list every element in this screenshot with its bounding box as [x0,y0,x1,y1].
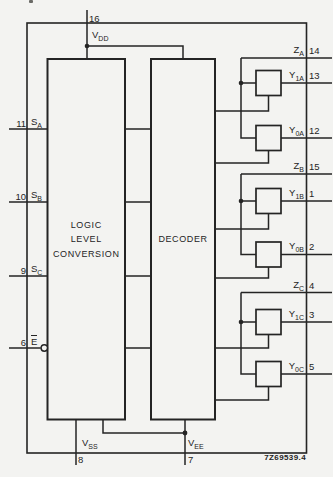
pin-1-number: 1 [309,188,314,199]
wire-vee [103,420,185,466]
wire-block-connectors [125,129,151,348]
pin-3-number: 3 [309,309,314,320]
pin-10-number: 10 [6,191,26,202]
y1b-label: Y1B [270,187,304,202]
pin-13-number: 13 [309,70,320,81]
y1c-label: Y1C [270,308,304,323]
pin-12-number: 12 [309,125,320,136]
decoder-label: DECODER [151,232,215,246]
figure-code: 7Z69539.4 [226,453,306,462]
pin-14-number: 14 [309,45,320,56]
vdd-label: VDD [92,29,108,44]
y0a-label: Y0A [270,124,304,139]
y1a-label: Y1A [270,69,304,84]
y0b-label: Y0B [270,240,304,255]
junction-dot-za [239,81,244,86]
junction-dot-zc [239,320,244,325]
junction-dot-zb [239,199,244,204]
enable-inverter-bubble [41,345,47,351]
junction-dot-vdd [85,44,90,49]
y0c-label: Y0C [270,360,304,375]
pin-6-number: 6 [6,337,26,348]
pin-9-number: 9 [6,265,26,276]
sb-label: SB [31,189,42,204]
pin-11-number: 11 [6,118,26,129]
vee-label: VEE [188,437,204,452]
logic-level-conversion-label: LOGIC LEVEL CONVERSION [48,218,126,261]
vss-label: VSS [82,437,98,452]
pin-16-number: 16 [89,13,100,24]
pin-4-number: 4 [309,280,314,291]
sa-label: SA [31,116,42,131]
enable-label: E [31,335,37,347]
junction-dot-vee [183,431,188,436]
pin-5-number: 5 [309,361,314,372]
sc-label: SC [31,263,42,278]
zc-label: ZC [270,279,304,294]
pin-15-number: 15 [309,161,320,172]
functional-diagram: 16 VDD 11 SA 10 SB 9 SC 6 E LOGIC LEVEL … [0,0,333,477]
pin-2-number: 2 [309,241,314,252]
zb-label: ZB [270,160,304,175]
pin-7-number: 7 [188,454,193,465]
pin-8-number: 8 [78,454,83,465]
za-label: ZA [270,44,304,59]
